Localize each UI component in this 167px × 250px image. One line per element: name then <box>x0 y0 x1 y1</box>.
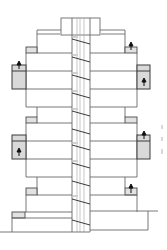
side-boxes-2 <box>12 131 150 159</box>
floors-upper <box>26 53 137 117</box>
stair-core <box>61 18 100 232</box>
side-annotation <box>161 125 163 154</box>
building-elevation-diagram <box>0 0 167 250</box>
balcony-boxes-upper <box>26 42 137 53</box>
side-boxes-1 <box>12 61 150 89</box>
balcony-boxes-mid <box>26 117 137 177</box>
floors-lower <box>0 177 158 232</box>
